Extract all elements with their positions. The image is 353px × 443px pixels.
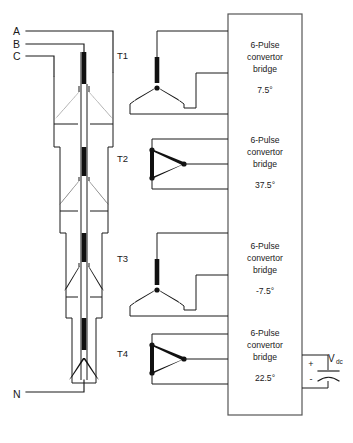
bridge-3-line1: 6-Pulse: [250, 241, 279, 251]
transformer-t3-wye: [130, 233, 228, 316]
t2-coil-lower: [150, 163, 186, 178]
transformer-label-t1: T1: [117, 50, 128, 61]
phase-c-wire: [26, 56, 54, 76]
bridge-3-angle: -7.5°: [256, 286, 274, 296]
t3-coil-left: [133, 290, 155, 304]
t1-lead-left: [130, 101, 228, 114]
t4-lead-top: [152, 334, 228, 345]
branch-left-2-top: [54, 124, 60, 147]
t1-lead-right: [180, 73, 228, 108]
t2-coil-upper: [150, 150, 186, 165]
t3-lead-top: [157, 233, 228, 259]
t4-lead-bottom: [152, 373, 228, 384]
bridge-2-line1: 6-Pulse: [250, 135, 279, 145]
coil-diag-left-1: [55, 91, 80, 119]
transformer-t4-delta: [149, 334, 228, 384]
coil-diag-left-2: [59, 180, 80, 205]
polarity-minus-label: -: [310, 374, 313, 384]
bridge-2-line2: convertor: [247, 147, 283, 157]
t3-coil-right: [159, 290, 181, 304]
transformer-t1-wye: [130, 31, 228, 114]
terminal-label-a: A: [13, 25, 20, 37]
primary-zigzag-winding: [26, 52, 113, 392]
vdc-label: V: [328, 353, 335, 364]
neutral-wire: [26, 380, 84, 392]
t2-lead-bottom: [152, 178, 228, 189]
schematic-svg: 6-Pulse convertor bridge 7.5° 6-Pulse co…: [0, 0, 353, 443]
terminal-label-b: B: [13, 38, 20, 50]
bridge-1-angle: 7.5°: [257, 85, 272, 95]
transformer-label-t4: T4: [117, 348, 128, 359]
t3-lead-right: [180, 275, 228, 310]
coil-diag-left-4: [69, 358, 85, 380]
t1-lead-top: [157, 31, 228, 57]
vdc-subscript: dc: [336, 358, 344, 365]
dc-lead-positive: [302, 355, 328, 370]
terminal-label-c: C: [13, 50, 21, 62]
bridge-1-line1: 6-Pulse: [250, 40, 279, 50]
t3-lead-left: [130, 303, 228, 316]
capacitor-plate-curved: [318, 377, 339, 381]
t3-star-point: [154, 287, 159, 292]
t4-coil-lower: [150, 358, 186, 373]
bridge-1-line3: bridge: [253, 64, 277, 74]
bridge-2-angle: 37.5°: [255, 180, 275, 190]
terminal-label-n: N: [13, 388, 21, 400]
t2-coil-left: [150, 150, 154, 178]
bridge-4-line1: 6-Pulse: [250, 328, 279, 338]
t1-coil-right: [159, 88, 181, 102]
branch-left-1: [54, 76, 78, 124]
bridge-4-angle: 22.5°: [255, 373, 275, 383]
t4-coil-upper: [150, 345, 186, 360]
transformer-t2-delta: [149, 139, 228, 189]
branch-right-1: [90, 72, 113, 124]
schematic-diagram: 6-Pulse convertor bridge 7.5° 6-Pulse co…: [0, 0, 353, 443]
t4-coil-left: [150, 345, 154, 373]
t1-star-point: [154, 85, 159, 90]
phase-b-wire: [26, 44, 84, 52]
bridge-1-line2: convertor: [247, 52, 283, 62]
branch-right-2-top: [108, 124, 113, 147]
bridge-3-line2: convertor: [247, 253, 283, 263]
branch-right-4-top: [96, 297, 102, 318]
branch-left-4-top: [66, 297, 72, 318]
t2-lead-top: [152, 139, 228, 150]
branch-right-3-top: [102, 211, 108, 233]
dc-lead-negative: [302, 381, 328, 388]
coil-diag-right-2: [88, 180, 109, 205]
t1-coil-left: [133, 88, 155, 102]
coil-diag-right-1: [88, 91, 113, 119]
bridge-3-line3: bridge: [253, 265, 277, 275]
phase-a-wire: [26, 31, 113, 72]
coil-diag-right-4: [83, 358, 99, 380]
transformer-label-t2: T2: [117, 153, 128, 164]
polarity-plus-label: +: [308, 359, 313, 369]
bridge-2-line3: bridge: [253, 159, 277, 169]
transformer-label-t3: T3: [117, 253, 128, 264]
bridge-4-line3: bridge: [253, 352, 277, 362]
supply-leads: [26, 31, 113, 76]
dc-output-section: + - V dc: [302, 353, 344, 388]
bridge-4-line2: convertor: [247, 340, 283, 350]
branch-left-3-top: [60, 211, 66, 233]
